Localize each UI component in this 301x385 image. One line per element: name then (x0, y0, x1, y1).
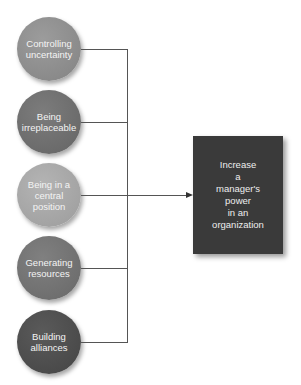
node-label: Being irreplaceable (20, 111, 78, 133)
source-node-building-alliances: Building alliances (17, 310, 81, 374)
source-node-being-irreplaceable: Being irreplaceable (17, 90, 81, 154)
connector-5 (81, 342, 128, 343)
connector-vertical (127, 49, 128, 343)
node-label: Being in a central position (20, 179, 78, 212)
node-label: Building alliances (20, 331, 78, 353)
connector-to-target (127, 195, 187, 196)
target-label: Increase a manager's power in an organiz… (203, 159, 273, 231)
connector-2 (81, 122, 128, 123)
connector-1 (81, 49, 128, 50)
node-label: Generating resources (20, 257, 78, 279)
connector-3 (81, 195, 128, 196)
node-label: Controlling uncertainty (20, 38, 78, 60)
arrowhead-icon (186, 192, 193, 198)
target-node-increase-power: Increase a manager's power in an organiz… (193, 136, 283, 254)
source-node-generating-resources: Generating resources (17, 236, 81, 300)
connector-4 (81, 268, 128, 269)
source-node-controlling-uncertainty: Controlling uncertainty (17, 17, 81, 81)
source-node-central-position: Being in a central position (17, 163, 81, 227)
